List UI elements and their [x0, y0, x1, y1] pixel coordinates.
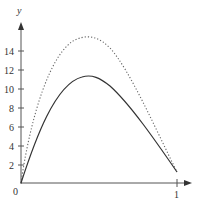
y-axis-arrow-icon — [18, 22, 24, 30]
y-tick-label-12: 12 — [4, 65, 14, 76]
y-tick-label-6: 6 — [9, 122, 14, 133]
dotted-curve — [21, 37, 177, 183]
chart: y 14 12 10 8 6 4 2 0 1 — [0, 0, 199, 202]
y-tick-label-4: 4 — [9, 141, 14, 152]
origin-label: 0 — [13, 186, 18, 197]
y-axis-label: y — [16, 5, 22, 16]
y-tick-label-10: 10 — [4, 84, 14, 95]
x-axis-arrow-icon — [184, 180, 192, 186]
solid-curve — [21, 76, 177, 183]
x-tick-label-1: 1 — [174, 189, 179, 200]
y-tick-label-14: 14 — [4, 46, 14, 57]
y-tick-label-8: 8 — [9, 103, 14, 114]
y-tick-label-2: 2 — [9, 160, 14, 171]
